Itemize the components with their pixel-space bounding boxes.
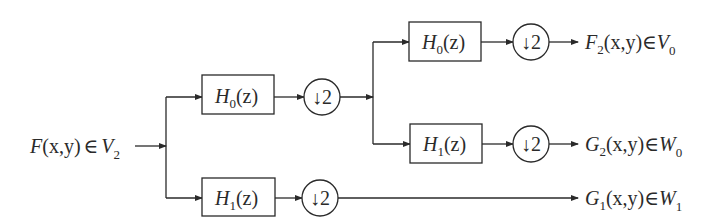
h0-filter-level2: H0(z) xyxy=(409,22,481,61)
output-g2-label: G2(x,y)∈W0 xyxy=(585,133,682,160)
downsample-by-2-level1-high: ↓2 xyxy=(302,180,338,216)
svg-text:F(x,y)∈V2: F(x,y)∈V2 xyxy=(29,135,120,162)
svg-text:↓2: ↓2 xyxy=(521,31,541,53)
svg-text:↓2: ↓2 xyxy=(521,133,541,155)
downsample-by-2-level1-low: ↓2 xyxy=(304,79,340,115)
output-g1-label: G1(x,y)∈W1 xyxy=(585,187,682,214)
svg-text:G2(x,y)∈W0: G2(x,y)∈W0 xyxy=(585,133,682,160)
input-signal-label: F(x,y)∈V2 xyxy=(29,135,120,162)
svg-text:F2(x,y)∈V0: F2(x,y)∈V0 xyxy=(584,31,676,58)
h1-filter-level1: H1(z) xyxy=(202,178,275,216)
svg-text:↓2: ↓2 xyxy=(312,86,332,108)
svg-text:↓2: ↓2 xyxy=(310,187,330,209)
h1-filter-level2: H1(z) xyxy=(410,124,482,163)
filter-bank-diagram: F(x,y)∈V2 H0(z) ↓2 H1(z) ↓2 H0(z) ↓2 xyxy=(0,0,722,223)
output-f2-label: F2(x,y)∈V0 xyxy=(584,31,676,58)
svg-text:G1(x,y)∈W1: G1(x,y)∈W1 xyxy=(585,187,682,214)
h0-filter-level1: H0(z) xyxy=(202,75,274,114)
downsample-by-2-level2-high: ↓2 xyxy=(513,126,549,162)
downsample-by-2-level2-low: ↓2 xyxy=(513,24,549,60)
